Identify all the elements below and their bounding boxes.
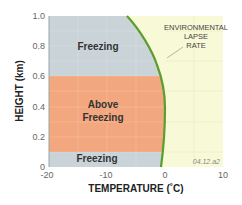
- region-label-freezing-bottom: Freezing: [76, 153, 117, 164]
- figure-code: 04.12.a2: [193, 158, 220, 165]
- annotation-line-2: LAPSE: [184, 32, 208, 41]
- y-tick-0.2: 0.2: [32, 132, 45, 142]
- x-tick--10: -10: [99, 170, 112, 180]
- y-axis-title: HEIGHT (km): [14, 60, 25, 122]
- x-tick--20: -20: [40, 170, 53, 180]
- lapse-rate-chart: Freezing Above Freezing Freezing ENVIRON…: [0, 0, 242, 205]
- region-label-freezing-top: Freezing: [77, 41, 118, 52]
- region-label-above-1: Above: [88, 99, 119, 110]
- annotation-line-3: RATE: [186, 41, 205, 50]
- x-tick-10: 10: [218, 170, 228, 180]
- region-label-above-2: Freezing: [82, 112, 123, 123]
- x-tick-0: 0: [162, 170, 167, 180]
- y-tick-0.8: 0.8: [32, 41, 45, 51]
- y-tick-0.4: 0.4: [32, 102, 45, 112]
- y-tick-1.0: 1.0: [32, 11, 45, 21]
- x-axis-title: TEMPERATURE (˚C): [88, 183, 183, 194]
- annotation-line-1: ENVIRONMENTAL: [164, 23, 228, 32]
- y-tick-0.6: 0.6: [32, 71, 45, 81]
